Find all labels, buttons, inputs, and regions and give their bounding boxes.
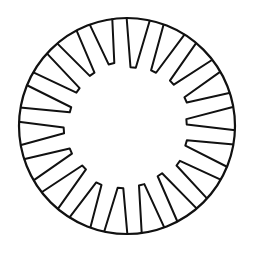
radial-slot bbox=[185, 140, 234, 167]
radial-slot bbox=[90, 19, 115, 65]
diagram-canvas bbox=[0, 0, 257, 263]
radial-slot bbox=[186, 107, 235, 130]
radial-slot bbox=[127, 18, 150, 68]
radial-slot bbox=[139, 184, 164, 233]
radial-slot bbox=[20, 85, 71, 112]
slotted-circle-diagram bbox=[0, 0, 257, 263]
radial-slot bbox=[170, 43, 213, 85]
radial-slot bbox=[104, 188, 127, 235]
radial-slot bbox=[19, 122, 64, 145]
radial-slot bbox=[41, 166, 86, 210]
radial-slot bbox=[177, 161, 222, 199]
